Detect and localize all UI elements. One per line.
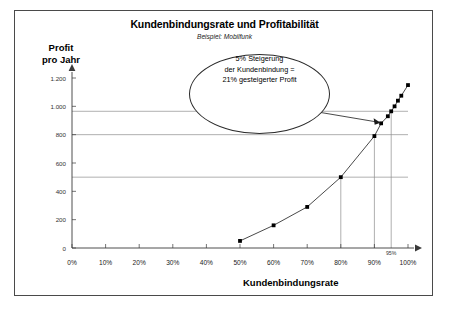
data-point-marker-1: [272, 223, 276, 227]
data-point-marker-7: [389, 109, 393, 113]
y-axis-tick-label-4: 800: [32, 131, 66, 138]
annotation-95-percent: 95%: [379, 250, 403, 256]
data-point-marker-9: [396, 99, 400, 103]
data-point-marker-2: [305, 205, 309, 209]
callout-line-1: 5% Steigerung: [236, 54, 284, 63]
x-axis-tick-label-6: 60%: [257, 259, 291, 266]
data-point-marker-3: [339, 175, 343, 179]
callout-text: 5% Steigerung der Kundenbindung = 21% ge…: [189, 54, 330, 86]
x-axis-tick-label-3: 30%: [156, 259, 190, 266]
x-axis-tick-label-2: 20%: [122, 259, 156, 266]
callout-line-2: der Kundenbindung =: [225, 65, 295, 74]
x-axis-tick-label-10: 100%: [391, 259, 425, 266]
y-axis-arrowhead: [69, 64, 76, 71]
y-axis-tick-label-3: 600: [32, 160, 66, 167]
data-point-marker-6: [386, 114, 390, 118]
plot-area: [0, 0, 449, 320]
x-axis-tick-label-7: 70%: [290, 259, 324, 266]
data-point-marker-0: [238, 239, 242, 243]
x-axis-tick-label-4: 40%: [189, 259, 223, 266]
x-axis-tick-label-5: 50%: [223, 259, 257, 266]
y-axis-tick-label-6: 1.200: [32, 75, 66, 82]
data-point-marker-5: [379, 121, 383, 125]
x-axis-tick-label-9: 90%: [357, 259, 391, 266]
y-axis-tick-label-0: 0: [32, 245, 66, 252]
chart-canvas: Kundenbindungsrate und Profitabilität Be…: [0, 0, 449, 320]
data-point-marker-10: [399, 94, 403, 98]
x-axis-tick-label-1: 10%: [89, 259, 123, 266]
data-point-marker-11: [406, 83, 410, 87]
y-axis-tick-label-2: 400: [32, 188, 66, 195]
x-axis-arrowhead: [415, 245, 422, 252]
y-axis-tick-label-5: 1.000: [32, 103, 66, 110]
x-axis-tick-label-0: 0%: [55, 259, 89, 266]
data-point-marker-8: [393, 104, 397, 108]
y-axis-tick-label-1: 200: [32, 216, 66, 223]
callout-line-3: 21% gesteigerter Profit: [222, 75, 296, 84]
data-point-marker-4: [373, 134, 377, 138]
x-axis-tick-label-8: 80%: [324, 259, 358, 266]
